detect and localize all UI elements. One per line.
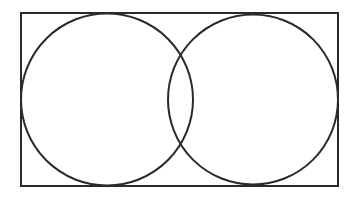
universe-frame [21, 13, 338, 186]
venn-diagram [0, 0, 362, 198]
